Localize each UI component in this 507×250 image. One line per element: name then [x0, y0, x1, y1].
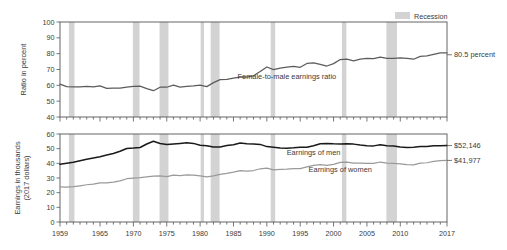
y-axis-label: Ratio in percent	[19, 44, 28, 96]
recession-band	[69, 134, 75, 222]
x-tick-label: 1980	[192, 229, 208, 238]
x-tick-label: 1975	[159, 229, 175, 238]
y-tick-label: 60	[47, 130, 55, 139]
x-tick-label: 1990	[259, 229, 275, 238]
recession-band	[211, 22, 220, 117]
recession-band	[342, 134, 346, 222]
y-tick-label: 50	[47, 144, 55, 153]
y-tick-label: 80	[47, 49, 55, 58]
recession-band	[201, 22, 204, 117]
recession-band	[160, 22, 169, 117]
ratio-panel: 405060708090100Female-to-male earnings r…	[19, 18, 495, 122]
x-tick-label: 1959	[52, 229, 68, 238]
x-tick-label: 2010	[392, 229, 408, 238]
series-inline-label-men: Earnings of men	[287, 148, 341, 157]
y-tick-label: 50	[47, 97, 55, 106]
y-tick-label: 20	[47, 188, 55, 197]
recession-band	[69, 22, 75, 117]
y-tick-label: 90	[47, 33, 55, 42]
y-tick-label: 100	[43, 18, 55, 27]
x-tick-label: 1985	[225, 229, 241, 238]
series-inline-label: Female-to-male earnings ratio	[238, 72, 337, 81]
x-tick-label: 1970	[125, 229, 141, 238]
end-value-label-men: $52,146	[454, 141, 481, 150]
recession-band	[160, 134, 169, 222]
y-tick-label: 70	[47, 65, 55, 74]
x-tick-label: 2017	[439, 229, 455, 238]
x-tick-label: 2000	[326, 229, 342, 238]
y-tick-label: 10	[47, 203, 55, 212]
recession-band	[133, 22, 140, 117]
x-tick-label: 1995	[292, 229, 308, 238]
legend: Recession	[395, 12, 448, 21]
recession-legend-swatch	[395, 12, 410, 19]
recession-legend-label: Recession	[414, 12, 448, 21]
y-axis-label: Earnings in thousands	[13, 141, 22, 214]
y-tick-label: 40	[47, 159, 55, 168]
x-tick-label: 1965	[92, 229, 108, 238]
recession-band	[386, 134, 397, 222]
recession-band	[386, 22, 397, 117]
y-tick-label: 30	[47, 174, 55, 183]
y-tick-label: 40	[47, 113, 55, 122]
x-tick-label: 2005	[359, 229, 375, 238]
end-value-label: 80.5 percent	[454, 50, 495, 59]
earnings-panel: 0102030405060195919651970197519801985199…	[13, 130, 481, 238]
y-tick-label: 60	[47, 81, 55, 90]
y-axis-label-units: (2017 dollars)	[22, 155, 31, 200]
series-inline-label-women: Earnings of women	[309, 165, 372, 174]
end-value-label-women: $41,977	[454, 156, 481, 165]
y-tick-label: 0	[51, 218, 55, 227]
figure-canvas: Recession 405060708090100Female-to-male …	[0, 0, 507, 250]
recession-band	[342, 22, 346, 117]
recession-band	[201, 134, 204, 222]
